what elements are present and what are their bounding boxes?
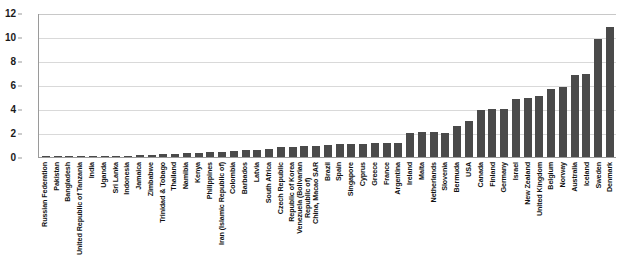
x-label-slot: Singapore — [345, 160, 357, 272]
x-label-slot: Sri Lanka — [110, 160, 122, 272]
bar — [54, 156, 62, 157]
bar — [112, 156, 120, 157]
x-tick-label: Iran (Islamic Republic of) — [218, 162, 226, 245]
x-label-slot: Iceland — [581, 160, 593, 272]
bar — [453, 126, 461, 157]
x-tick-label: Pakistan — [53, 162, 61, 191]
x-tick-label: China, Macao SAR — [312, 162, 320, 224]
x-tick-label: Singapore — [347, 162, 355, 196]
x-label-slot: United Republic of Tanzania — [74, 160, 86, 272]
x-tick-label: Colombia — [229, 162, 237, 194]
bar-slot — [240, 14, 252, 157]
bar-chart: 024681012 Russian FederationPakistanBang… — [0, 0, 620, 274]
x-label-slot: Finland — [487, 160, 499, 272]
x-label-slot: Slovenia — [440, 160, 452, 272]
bar — [336, 144, 344, 157]
x-tick-label: Kenya — [194, 162, 202, 183]
bar — [230, 151, 238, 157]
y-tick-label: 0 — [10, 153, 16, 163]
x-label-slot: Venezuela (Bolivarian Republic of) — [298, 160, 310, 272]
x-label-slot: Netherlands — [428, 160, 440, 272]
bar — [606, 27, 614, 157]
bar-slot — [592, 14, 604, 157]
bar-slot — [428, 14, 440, 157]
y-tick-mark — [18, 14, 22, 15]
x-tick-label: Israel — [512, 162, 520, 180]
x-tick-label: Malta — [418, 162, 426, 180]
x-label-slot: Iran (Islamic Republic of) — [216, 160, 228, 272]
x-tick-label: France — [383, 162, 391, 185]
bar — [524, 98, 532, 157]
bar — [148, 155, 156, 157]
bar-slot — [498, 14, 510, 157]
bar — [242, 150, 250, 157]
x-label-slot: Argentina — [392, 160, 404, 272]
bar — [582, 74, 590, 157]
x-label-slot: Canada — [475, 160, 487, 272]
x-tick-label: Ireland — [406, 162, 414, 185]
x-tick-label: Spain — [335, 162, 343, 181]
bar — [500, 109, 508, 157]
x-tick-label: Germany — [500, 162, 508, 192]
bar-slot — [64, 14, 76, 157]
bar-slot — [604, 14, 616, 157]
bar-slot — [87, 14, 99, 157]
bar — [124, 156, 132, 157]
bar-slot — [463, 14, 475, 157]
bar — [324, 145, 332, 157]
bar-slot — [569, 14, 581, 157]
bar — [77, 156, 85, 157]
x-tick-label: Slovenia — [441, 162, 449, 191]
y-tick-label: 10 — [5, 33, 16, 43]
y-tick-label: 8 — [10, 57, 16, 67]
y-tick-mark — [18, 86, 22, 87]
bar — [65, 156, 73, 157]
bar-slot — [169, 14, 181, 157]
bar — [171, 154, 179, 157]
x-tick-label: Czech Republic — [276, 162, 284, 214]
y-tick-mark — [18, 134, 22, 135]
x-label-slot: France — [381, 160, 393, 272]
bar-slot — [346, 14, 358, 157]
x-tick-label: Barbados — [241, 162, 249, 194]
x-label-slot: Czech Republic — [275, 160, 287, 272]
bar — [183, 153, 191, 157]
x-label-slot: Spain — [334, 160, 346, 272]
x-label-slot: USA — [463, 160, 475, 272]
x-tick-label: Finland — [489, 162, 497, 187]
bar-slot — [534, 14, 546, 157]
bar — [206, 152, 214, 157]
bar-slot — [451, 14, 463, 157]
bar-slot — [393, 14, 405, 157]
x-label-slot: Kenya — [192, 160, 204, 272]
x-label-slot: Germany — [498, 160, 510, 272]
x-label-slot: Belgium — [546, 160, 558, 272]
bar — [371, 143, 379, 157]
x-label-slot: Russian Federation — [39, 160, 51, 272]
x-tick-label: Philippines — [206, 162, 214, 199]
x-label-slot: Pakistan — [51, 160, 63, 272]
x-tick-label: Canada — [477, 162, 485, 187]
bar-slot — [440, 14, 452, 157]
bar-slot — [216, 14, 228, 157]
x-axis-labels: Russian FederationPakistanBangladeshUnit… — [39, 160, 616, 272]
x-tick-label: Bermuda — [453, 162, 461, 192]
x-label-slot: Uganda — [98, 160, 110, 272]
bar — [136, 155, 144, 157]
bar-slot — [252, 14, 264, 157]
x-tick-label: Russian Federation — [41, 162, 49, 227]
bar-slot — [205, 14, 217, 157]
bar — [418, 132, 426, 157]
x-label-slot: Philippines — [204, 160, 216, 272]
x-tick-label: United Republic of Tanzania — [76, 162, 84, 255]
bar-slot — [545, 14, 557, 157]
bar — [594, 39, 602, 157]
x-tick-label: Sri Lanka — [112, 162, 120, 193]
bar-slot — [357, 14, 369, 157]
bar-slot — [557, 14, 569, 157]
bar-slot — [510, 14, 522, 157]
x-tick-label: Cyprus — [359, 162, 367, 186]
x-label-slot: Norway — [557, 160, 569, 272]
bar-slot — [404, 14, 416, 157]
bar-slot — [381, 14, 393, 157]
